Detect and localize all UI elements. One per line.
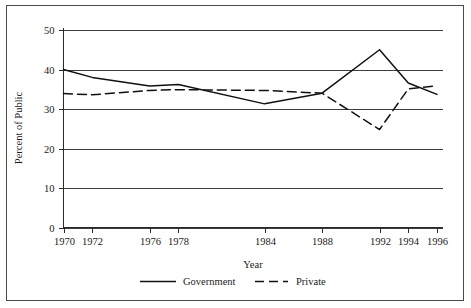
y-tick-label: 0 (49, 223, 54, 234)
series-line-government (64, 50, 438, 104)
y-tick-label: 40 (44, 65, 55, 76)
gridlines-group (64, 31, 444, 229)
y-tick-labels-group: 01020304050 (44, 25, 55, 234)
x-tick-label: 1978 (168, 236, 189, 247)
x-tick-label: 1976 (140, 236, 161, 247)
x-tick-label: 1988 (312, 236, 333, 247)
x-tick-labels-group: 197019721976197819841988199219941996 (54, 236, 448, 247)
x-tick-label: 1984 (255, 236, 277, 247)
y-tick-label: 50 (44, 25, 55, 36)
y-tick-label: 10 (44, 183, 55, 194)
y-tick-label: 20 (44, 144, 55, 155)
y-tick-label: 30 (44, 104, 55, 115)
legend-label-government: Government (183, 276, 236, 287)
x-tick-label: 1994 (398, 236, 420, 247)
legend: Government Private (140, 276, 326, 287)
x-axis-title: Year (243, 259, 263, 270)
line-chart: 01020304050 1970197219761978198419881992… (0, 0, 471, 308)
x-tick-label: 1996 (427, 236, 448, 247)
x-tick-label: 1970 (54, 236, 75, 247)
series-line-private (64, 86, 438, 130)
x-tick-label: 1972 (82, 236, 103, 247)
chart-figure: 01020304050 1970197219761978198419881992… (0, 0, 471, 308)
y-axis-title: Percent of Public (13, 92, 24, 165)
legend-label-private: Private (296, 276, 326, 287)
x-tick-label: 1992 (370, 236, 391, 247)
y-tick-marks-group (59, 31, 64, 229)
